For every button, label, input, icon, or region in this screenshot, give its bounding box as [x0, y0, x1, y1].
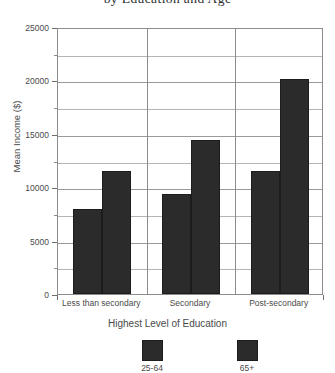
x-tick-label: Secondary — [170, 298, 211, 308]
chart-title: by Education and Age — [0, 0, 335, 7]
y-tick-label: 25000 — [25, 23, 49, 33]
y-tick-label: 10000 — [25, 183, 49, 193]
bar — [191, 140, 220, 294]
bar — [73, 209, 102, 294]
y-tick-mark — [52, 135, 57, 136]
bar — [251, 171, 280, 294]
chart-legend: 25-6465+ — [0, 340, 335, 368]
bar — [102, 171, 131, 294]
y-tick-mark — [52, 242, 57, 243]
x-tick-label: Less than secondary — [62, 298, 140, 308]
x-axis-title: Highest Level of Education — [0, 318, 335, 329]
legend-entry: 25-64 — [107, 340, 197, 373]
gridline-minor — [58, 56, 322, 57]
legend-swatch — [237, 340, 258, 361]
y-axis-title: Mean Income ($) — [11, 77, 22, 197]
y-tick-mark — [52, 188, 57, 189]
y-tick-mark-minor — [54, 108, 57, 109]
y-tick-mark — [52, 81, 57, 82]
y-tick-label: 20000 — [25, 76, 49, 86]
panel-separator — [235, 29, 236, 294]
legend-label: 25-64 — [107, 363, 197, 373]
y-tick-mark-minor — [54, 268, 57, 269]
legend-entry: 65+ — [202, 340, 292, 373]
y-tick-mark-minor — [54, 55, 57, 56]
x-tick-label: Post-secondary — [249, 298, 308, 308]
y-tick-mark — [52, 28, 57, 29]
legend-swatch — [142, 340, 163, 361]
y-tick-mark-minor — [54, 215, 57, 216]
bar — [280, 79, 309, 294]
bar — [162, 194, 191, 294]
y-tick-label: 5000 — [30, 237, 49, 247]
y-tick-mark-minor — [54, 162, 57, 163]
x-tick-mark — [57, 295, 58, 300]
legend-label: 65+ — [202, 363, 292, 373]
plot-area — [57, 28, 323, 295]
y-tick-label: 15000 — [25, 130, 49, 140]
y-tick-label: 0 — [44, 290, 49, 300]
panel-separator — [147, 29, 148, 294]
x-tick-mark — [323, 295, 324, 300]
